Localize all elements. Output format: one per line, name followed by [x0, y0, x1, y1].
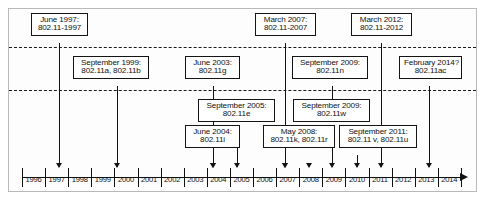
axis-year-label: 2012: [392, 175, 415, 184]
event-box-september-2005[interactable]: September 2005: 802.11e: [198, 99, 275, 122]
stem-march-2007: [285, 43, 286, 167]
axis-year-label: 1996: [22, 175, 45, 184]
axis-year-label: 2005: [230, 175, 253, 184]
timeline-figure: June 1997: 802.11-1997 September 1999: 8…: [0, 0, 485, 206]
arrowhead-may-2008: [282, 163, 288, 168]
event-standards: 802.11ac: [404, 67, 457, 75]
event-standards: 802.11g: [190, 67, 235, 75]
axis-year-label: 2007: [276, 175, 299, 184]
arrowhead-september-2005: [234, 163, 240, 168]
axis-year-label: 2009: [322, 175, 345, 184]
arrowhead-september-2009-w: [329, 163, 335, 168]
event-standards: 802.11w: [298, 110, 365, 118]
event-box-june-2004[interactable]: June 2004: 802.11i: [185, 125, 240, 148]
event-box-february-2014[interactable]: February 2014? 802.11ac: [399, 56, 462, 79]
event-standards: 802.11e: [203, 110, 270, 118]
event-box-march-2007[interactable]: March 2007: 802.11-2007: [255, 13, 316, 36]
event-standards: 802.11 v, 802.11u: [344, 136, 412, 144]
arrowhead-september-2011: [354, 163, 360, 168]
axis-year-label: 2001: [138, 175, 161, 184]
axis-year-label: 1998: [68, 175, 91, 184]
arrowhead-march-2012: [378, 163, 384, 168]
event-standards: 802.11-1997: [36, 24, 83, 32]
arrowhead-may-2008-tick: [306, 163, 312, 168]
arrowhead-september-1999: [114, 163, 120, 168]
event-box-september-2011[interactable]: September 2011: 802.11 v, 802.11u: [339, 125, 417, 148]
lower-dashed-guide-line: [9, 90, 476, 91]
event-box-june-1997[interactable]: June 1997: 802.11-1997: [31, 13, 88, 36]
axis-year-label: 2014: [438, 175, 461, 184]
event-standards: 802.11-2007: [260, 24, 311, 32]
axis-year-label: 2006: [253, 175, 276, 184]
axis-year-label: 2002: [161, 175, 184, 184]
axis-year-label: 2013: [415, 175, 438, 184]
axis-year-label: 2003: [184, 175, 207, 184]
arrowhead-june-1997: [56, 163, 62, 168]
event-standards: 802.11n: [297, 67, 363, 75]
upper-dashed-guide-line: [9, 47, 476, 48]
event-box-june-2003[interactable]: June 2003: 802.11g: [185, 56, 240, 79]
event-box-september-2009-n[interactable]: September 2009: 802.11n: [292, 56, 368, 79]
axis-year-label: 2010: [345, 175, 368, 184]
axis-year-label: 2011: [369, 175, 392, 184]
stem-september-1999: [117, 86, 118, 167]
axis-year-label: 2000: [114, 175, 137, 184]
event-box-march-2012[interactable]: March 2012: 802.11-2012: [351, 13, 412, 36]
arrowhead-february-2014: [426, 163, 432, 168]
event-standards: 802.11a, 802.11b: [78, 67, 144, 75]
event-box-may-2008[interactable]: May 2008: 802.11k, 802.11r: [263, 125, 335, 148]
axis-year-label: 1997: [45, 175, 68, 184]
stem-march-2012: [381, 43, 382, 167]
event-box-september-1999[interactable]: September 1999: 802.11a, 802.11b: [73, 56, 149, 79]
event-standards: 802.11i: [190, 136, 235, 144]
stem-february-2014: [429, 86, 430, 167]
arrowhead-june-2004: [210, 163, 216, 168]
axis-year-label: 2004: [207, 175, 230, 184]
axis-year-label: 1999: [91, 175, 114, 184]
timeline-axis-arrow-icon: [460, 173, 468, 181]
axis-year-label: 2008: [299, 175, 322, 184]
event-standards: 802.11-2012: [356, 24, 407, 32]
event-box-september-2009-w[interactable]: September 2009: 802.11w: [293, 99, 370, 122]
stem-june-1997: [59, 43, 60, 167]
event-standards: 802.11k, 802.11r: [268, 136, 330, 144]
